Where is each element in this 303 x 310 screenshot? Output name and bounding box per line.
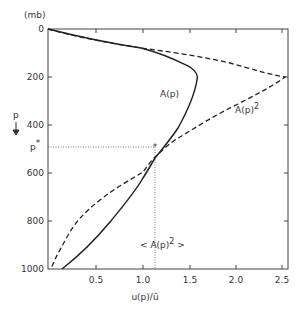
svg-text:0: 0 [38,24,44,34]
arrow-down-icon [13,122,19,135]
y-axis-label: p [13,110,19,120]
chart: 0 200 400 600 800 1000 (mb) p 0.5 1.0 1.… [0,0,303,310]
curve-a-squared [48,29,285,269]
svg-text:400: 400 [27,120,44,130]
svg-text:1.5: 1.5 [183,275,197,285]
curve-a-label: A(p) [160,89,179,99]
plot-frame [48,29,288,269]
svg-text:0.5: 0.5 [89,275,103,285]
p-star-marker: * [153,142,158,152]
x-axis-ticks [96,29,282,269]
curve-a-squared-label: A(p)2 [235,102,259,115]
x-axis-label: u(p)/ū [131,292,158,302]
x-tick-labels: 0.5 1.0 1.5 2.0 2.5 [89,275,289,285]
y-unit-label: (mb) [24,10,46,20]
svg-text:1.0: 1.0 [136,275,151,285]
svg-text:1000: 1000 [21,264,44,274]
svg-text:2.0: 2.0 [229,275,244,285]
mean-a-squared-label: < A(p)2 > [140,237,185,250]
svg-text:600: 600 [27,168,44,178]
svg-text:800: 800 [27,216,44,226]
p-star-label: p* [30,138,41,152]
curve-a-of-p [48,29,197,269]
svg-text:200: 200 [27,72,44,82]
svg-text:2.5: 2.5 [275,275,289,285]
